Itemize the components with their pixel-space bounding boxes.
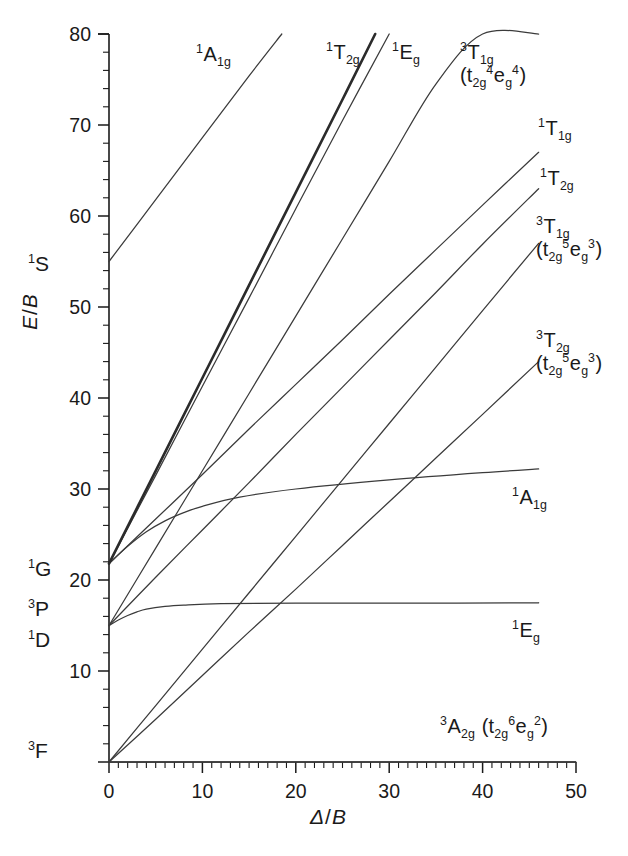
tick-labels-group: 102030405060708001020304050 xyxy=(69,23,587,802)
free-ion-term-1G: 1G xyxy=(28,557,51,581)
term-multiplicity: 3 xyxy=(28,597,35,611)
y-axis-tick-label: 50 xyxy=(69,296,91,318)
term-multiplicity: 3 xyxy=(536,328,543,342)
term-symbol: E xyxy=(519,619,532,641)
term-symbol: T xyxy=(333,41,345,63)
y-axis-tick-label: 60 xyxy=(69,205,91,227)
x-axis-tick-label: 20 xyxy=(285,780,307,802)
curve-label-1Eg-flat: 1Eg xyxy=(512,620,540,640)
curve-label-3T1g-lower: 3T1g(t2g5eg3) xyxy=(536,216,602,259)
x-axis-denominator: B xyxy=(332,805,346,828)
energy-curve xyxy=(109,34,375,564)
term-symbol: T xyxy=(467,41,479,63)
term-multiplicity: 1 xyxy=(28,628,35,642)
curves-group xyxy=(109,30,576,762)
electron-configuration: (t2g5eg3) xyxy=(536,353,602,373)
term-multiplicity: 1 xyxy=(392,40,399,54)
term-multiplicity: 1 xyxy=(28,557,35,571)
term-subscript: 2g xyxy=(461,727,475,741)
term-subscript: 2g xyxy=(346,53,360,67)
term-symbol: T xyxy=(545,117,557,139)
term-symbol: T xyxy=(547,167,559,189)
term-letter: P xyxy=(35,597,49,620)
term-letter: S xyxy=(35,252,49,275)
curve-label-3A2g-ground: 3A2g(t2g6eg2) xyxy=(440,716,548,736)
term-multiplicity: 3 xyxy=(440,714,447,728)
energy-curve xyxy=(109,362,539,762)
term-multiplicity: 3 xyxy=(460,40,467,54)
x-axis-tick-label: 30 xyxy=(378,780,400,802)
curve-label-3T2g: 3T2g(t2g5eg3) xyxy=(536,330,602,373)
term-multiplicity: 1 xyxy=(196,42,203,56)
y-axis-slash: / xyxy=(18,308,41,316)
x-axis-tick-label: 40 xyxy=(472,780,494,802)
term-subscript: 1g xyxy=(558,129,572,143)
curve-label-1T2g-top: 1T2g xyxy=(326,42,360,62)
term-letter: D xyxy=(35,628,50,651)
y-axis-tick-label: 30 xyxy=(69,478,91,500)
curve-label-1A1g-top: 1A1g xyxy=(196,44,231,64)
electron-configuration: (t2g4eg4) xyxy=(460,65,526,85)
free-ion-term-1S: 1S xyxy=(28,252,49,276)
y-axis-tick-label: 70 xyxy=(69,114,91,136)
energy-curve xyxy=(109,189,539,626)
y-axis-tick-label: 80 xyxy=(69,23,91,45)
term-subscript: 1g xyxy=(217,55,231,69)
x-axis-title: Δ/B xyxy=(310,805,346,829)
energy-curve xyxy=(109,469,539,564)
x-axis-tick-label: 10 xyxy=(192,780,214,802)
term-symbol: A xyxy=(447,715,460,737)
energy-curve xyxy=(109,603,539,626)
tanabe-sugano-figure: 102030405060708001020304050 E/B Δ/B 1S1G… xyxy=(0,0,628,856)
y-axis-tick-label: 20 xyxy=(69,569,91,591)
curve-label-1T2g: 1T2g xyxy=(540,168,574,188)
y-axis-symbol: E xyxy=(18,316,41,330)
term-subscript: g xyxy=(413,53,420,67)
x-axis-symbol: Δ xyxy=(310,805,324,828)
axes-group xyxy=(98,34,576,773)
y-axis-denominator: B xyxy=(18,294,41,308)
term-multiplicity: 1 xyxy=(28,252,35,266)
energy-curve xyxy=(109,34,282,262)
curve-label-1A1g-flat: 1A1g xyxy=(512,487,547,507)
term-symbol: E xyxy=(399,41,412,63)
term-letter: F xyxy=(35,739,48,762)
term-subscript: g xyxy=(533,631,540,645)
term-subscript: 2g xyxy=(560,179,574,193)
term-symbol: T xyxy=(543,329,555,351)
y-axis-title: E/B xyxy=(18,294,42,330)
term-multiplicity: 1 xyxy=(512,618,519,632)
free-ion-term-1D: 1D xyxy=(28,628,50,652)
curve-label-1Eg-top: 1Eg xyxy=(392,42,420,62)
term-symbol: A xyxy=(203,43,216,65)
free-ion-term-3P: 3P xyxy=(28,597,49,621)
term-multiplicity: 1 xyxy=(512,485,519,499)
electron-configuration: (t2g5eg3) xyxy=(536,239,602,259)
curve-label-1T1g: 1T1g xyxy=(538,118,572,138)
term-multiplicity: 1 xyxy=(538,116,545,130)
term-multiplicity: 3 xyxy=(28,739,35,753)
energy-curve xyxy=(109,30,539,625)
x-axis-slash: / xyxy=(324,805,332,828)
term-symbol: T xyxy=(543,215,555,237)
electron-configuration: (t2g6eg2) xyxy=(482,715,548,737)
free-ion-term-3F: 3F xyxy=(28,739,48,763)
term-subscript: 1g xyxy=(533,498,547,512)
term-multiplicity: 3 xyxy=(536,214,543,228)
x-axis-tick-label: 0 xyxy=(104,780,115,802)
term-multiplicity: 1 xyxy=(540,166,547,180)
term-multiplicity: 1 xyxy=(326,40,333,54)
curve-label-3T1g-upper: 3T1g(t2g4eg4) xyxy=(460,42,526,85)
term-letter: G xyxy=(35,557,51,580)
y-axis-tick-label: 40 xyxy=(69,387,91,409)
x-axis-tick-label: 50 xyxy=(565,780,587,802)
y-axis-tick-label: 10 xyxy=(69,660,91,682)
term-symbol: A xyxy=(519,486,532,508)
